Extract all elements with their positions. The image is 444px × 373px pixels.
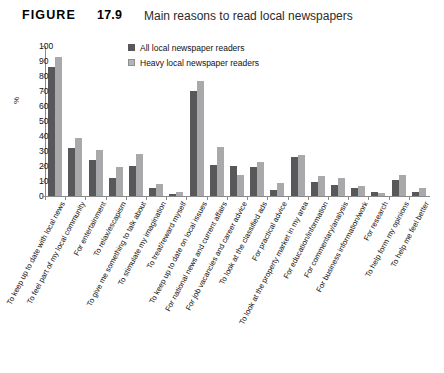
x-axis-tick-mark — [45, 196, 46, 200]
x-axis-line — [45, 196, 430, 197]
x-axis-tick-mark — [126, 196, 127, 200]
x-axis-tick-mark — [288, 196, 289, 200]
x-axis-tick-mark — [166, 196, 167, 200]
bar-heavy-readers — [399, 175, 406, 196]
bar-heavy-readers — [136, 154, 143, 196]
bar-heavy-readers — [318, 176, 325, 196]
bar-group — [368, 46, 388, 196]
bar-heavy-readers — [338, 178, 345, 196]
x-axis-tick-mark — [106, 196, 107, 200]
y-axis-tick-mark — [42, 91, 45, 92]
bar-all-readers — [190, 91, 197, 196]
plot-area — [45, 46, 429, 196]
bar-group — [409, 46, 429, 196]
x-axis-tick-mark — [348, 196, 349, 200]
bar-group — [65, 46, 85, 196]
y-axis-tick-mark — [42, 61, 45, 62]
x-axis-tick-mark — [186, 196, 187, 200]
x-axis-tick-mark — [207, 196, 208, 200]
bar-all-readers — [230, 166, 237, 196]
bar-group — [288, 46, 308, 196]
bar-group — [389, 46, 409, 196]
bar-group — [186, 46, 206, 196]
bar-all-readers — [68, 148, 75, 196]
bar-heavy-readers — [55, 57, 62, 197]
y-axis-tick-mark — [42, 151, 45, 152]
x-axis-tick-mark — [308, 196, 309, 200]
y-axis-tick-mark — [42, 166, 45, 167]
x-axis-tick-mark — [328, 196, 329, 200]
bar-group — [106, 46, 126, 196]
figure-header: FIGURE 17.9 Main reasons to read local n… — [22, 8, 432, 30]
bar-group — [227, 46, 247, 196]
y-axis-tick-mark — [42, 121, 45, 122]
bar-heavy-readers — [156, 184, 163, 196]
figure-container: FIGURE 17.9 Main reasons to read local n… — [0, 0, 444, 373]
bar-all-readers — [250, 167, 257, 196]
bar-all-readers — [311, 182, 318, 196]
bar-heavy-readers — [358, 186, 365, 196]
bar-heavy-readers — [116, 167, 123, 196]
x-axis-tick-mark — [227, 196, 228, 200]
x-axis-tick-mark — [85, 196, 86, 200]
bar-heavy-readers — [419, 188, 426, 196]
bar-all-readers — [351, 188, 358, 196]
x-axis-tick-mark — [146, 196, 147, 200]
bar-heavy-readers — [237, 175, 244, 196]
bar-all-readers — [331, 185, 338, 196]
y-axis-tick-mark — [42, 136, 45, 137]
x-axis-tick-mark — [368, 196, 369, 200]
bar-group — [45, 46, 65, 196]
bar-heavy-readers — [197, 81, 204, 197]
bar-group — [207, 46, 227, 196]
bar-group — [348, 46, 368, 196]
bar-heavy-readers — [277, 183, 284, 197]
bar-group — [126, 46, 146, 196]
bar-all-readers — [412, 192, 419, 196]
x-axis-category-label: To help me feel better — [389, 200, 431, 269]
bar-group — [328, 46, 348, 196]
figure-title: Main reasons to read local newspapers — [144, 9, 353, 23]
bar-all-readers — [89, 160, 96, 196]
figure-label: FIGURE — [22, 8, 76, 22]
bar-all-readers — [109, 178, 116, 196]
y-axis-label: % — [12, 97, 21, 104]
bar-group — [166, 46, 186, 196]
bar-heavy-readers — [378, 193, 385, 196]
y-axis-tick-mark — [42, 76, 45, 77]
x-axis-tick-mark — [247, 196, 248, 200]
bar-group — [308, 46, 328, 196]
bar-all-readers — [129, 166, 136, 196]
bar-all-readers — [210, 165, 217, 196]
bar-all-readers — [392, 180, 399, 197]
bar-heavy-readers — [96, 150, 103, 197]
x-axis-tick-mark — [267, 196, 268, 200]
bar-group — [85, 46, 105, 196]
y-axis-tick-mark — [42, 46, 45, 47]
bar-group — [146, 46, 166, 196]
figure-number: 17.9 — [97, 8, 122, 22]
bar-heavy-readers — [217, 147, 224, 196]
bar-all-readers — [371, 192, 378, 196]
bar-heavy-readers — [298, 155, 305, 196]
y-axis-tick-mark — [42, 181, 45, 182]
x-axis-tick-mark — [389, 196, 390, 200]
x-axis-labels: To keep up to date with local newsTo fee… — [0, 200, 444, 370]
bar-all-readers — [291, 157, 298, 196]
bar-all-readers — [149, 188, 156, 196]
bar-heavy-readers — [176, 192, 183, 197]
bar-all-readers — [270, 190, 277, 196]
x-axis-tick-mark — [65, 196, 66, 200]
y-axis-tick-mark — [42, 106, 45, 107]
bar-heavy-readers — [75, 138, 82, 197]
bar-all-readers — [169, 194, 176, 196]
bar-group — [247, 46, 267, 196]
bar-heavy-readers — [257, 162, 264, 196]
bar-group — [267, 46, 287, 196]
bar-all-readers — [48, 67, 55, 196]
x-axis-tick-mark — [409, 196, 410, 200]
